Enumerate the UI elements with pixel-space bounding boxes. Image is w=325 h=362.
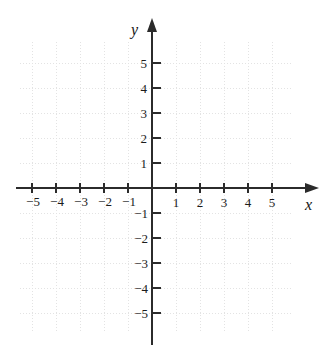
y-tick-label-neg-4: −4 [134,282,148,295]
x-tick-label-4: 4 [245,196,252,209]
y-tick-label-neg-3: −3 [134,257,148,270]
x-axis-label: x [305,197,312,213]
x-tick-label-−3: −3 [74,195,88,208]
y-tick-label-1: 1 [141,157,148,170]
x-tick-label-−4: −4 [50,195,64,208]
y-tick-label-2: 2 [141,132,148,145]
y-tick-label-neg-2: −2 [134,232,148,245]
y-tick-label-neg-1: −1 [134,207,148,220]
y-tick-label-5: 5 [141,57,148,70]
x-tick-label-2: 2 [197,196,204,209]
y-tick-label-3: 3 [141,107,148,120]
y-tick-label-neg-5: −5 [134,307,148,320]
x-tick-label-3: 3 [221,196,228,209]
axes-layer [0,0,325,362]
x-tick-label-−5: −5 [26,195,40,208]
y-tick-label-4: 4 [141,82,148,95]
x-tick-label-1: 1 [173,196,180,209]
y-axis-label: y [131,22,138,38]
x-tick-label-5: 5 [269,196,276,209]
x-tick-label-−2: −2 [98,195,112,208]
coordinate-plane: −5−4−3−2−11234554321−1−2−3−4−5 y x [0,0,325,362]
